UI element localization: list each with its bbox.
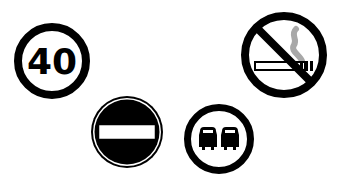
car-icon-right [221, 127, 239, 150]
no-overtaking-sign [183, 103, 255, 175]
no-entry-icon [90, 95, 164, 169]
no-overtaking-icon [183, 103, 255, 175]
speed-limit-icon: 40 [14, 23, 90, 99]
no-entry-sign [90, 95, 164, 169]
no-smoking-sign [240, 11, 328, 99]
no-smoking-icon [240, 11, 328, 99]
speed-limit-value: 40 [27, 41, 77, 82]
speed-limit-40-sign: 40 [14, 23, 90, 99]
car-icon-left [199, 127, 217, 150]
no-entry-bar [99, 125, 155, 139]
